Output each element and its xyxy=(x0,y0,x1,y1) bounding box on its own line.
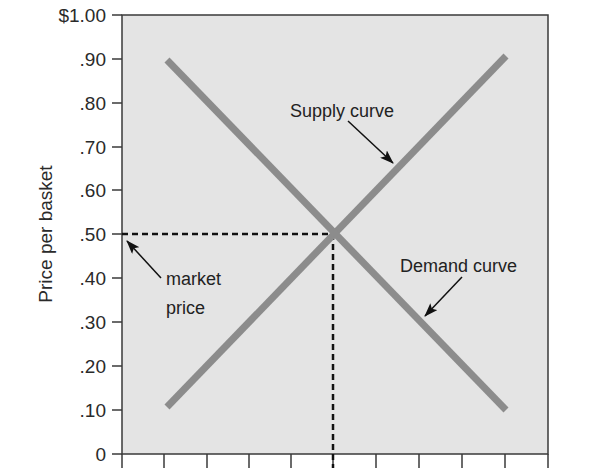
market-price-label-line2: price xyxy=(166,298,205,318)
y-tick-label: .90 xyxy=(80,49,106,70)
y-tick-label: .10 xyxy=(80,400,106,421)
y-tick-label: .80 xyxy=(80,93,106,114)
y-tick-label: 0 xyxy=(95,444,106,465)
y-tick-label: .40 xyxy=(80,268,106,289)
market-price-label-line1: market xyxy=(166,269,221,289)
y-tick-label: .50 xyxy=(80,224,106,245)
y-tick-labels: $1.00 .90 .80 .70 .60 .50 .40 .30 .20 .1… xyxy=(58,5,106,465)
y-tick-label: .30 xyxy=(80,312,106,333)
y-tick-label: $1.00 xyxy=(58,5,106,26)
y-tick-label: .20 xyxy=(80,356,106,377)
y-tick-label: .70 xyxy=(80,137,106,158)
y-tick-label: .60 xyxy=(80,180,106,201)
y-axis-label: Price per basket xyxy=(35,165,56,303)
supply-demand-chart: $1.00 .90 .80 .70 .60 .50 .40 .30 .20 .1… xyxy=(0,0,590,468)
supply-curve-label: Supply curve xyxy=(290,101,394,121)
x-axis xyxy=(122,454,548,468)
demand-curve-label: Demand curve xyxy=(400,256,517,276)
y-axis xyxy=(112,15,122,454)
